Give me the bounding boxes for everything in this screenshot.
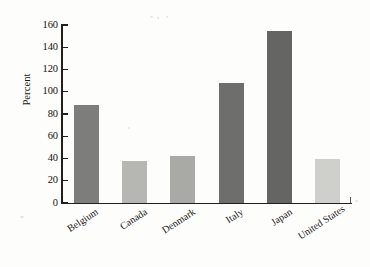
bar xyxy=(122,161,147,203)
x-axis-label: Denmark xyxy=(151,206,197,241)
x-axis-label: United States xyxy=(296,206,342,241)
scan-speckle xyxy=(20,216,24,218)
y-axis-tick-label: 160 xyxy=(43,20,58,31)
bar xyxy=(315,159,340,204)
y-axis-tick-label: 60 xyxy=(48,131,58,142)
y-axis-tick-label: 80 xyxy=(48,109,58,120)
x-axis-label: Belgium xyxy=(54,206,100,241)
y-axis-tick-label: 0 xyxy=(53,198,58,209)
bar xyxy=(267,31,292,203)
y-axis-tick-label: 40 xyxy=(48,153,58,164)
y-axis-tick-label: 120 xyxy=(43,64,58,75)
x-axis-label: Japan xyxy=(247,206,293,241)
bars-container xyxy=(62,25,352,203)
y-axis-tick-label: 140 xyxy=(43,42,58,53)
scan-speckle xyxy=(166,16,168,18)
bar xyxy=(170,156,195,203)
bar xyxy=(219,83,244,203)
bar xyxy=(74,105,99,203)
y-axis-tick-label: 20 xyxy=(48,175,58,186)
scan-speckle xyxy=(355,200,358,202)
x-axis-label: Canada xyxy=(102,206,148,241)
y-axis-title: Percent xyxy=(21,60,32,120)
bar-chart: 020406080100120140160 Percent BelgiumCan… xyxy=(0,0,370,267)
scan-speckle xyxy=(150,16,153,18)
x-axis-label: Italy xyxy=(199,206,245,241)
y-axis-tick-label: 100 xyxy=(43,86,58,97)
scan-speckle xyxy=(157,17,159,19)
scan-speckle xyxy=(128,127,130,129)
